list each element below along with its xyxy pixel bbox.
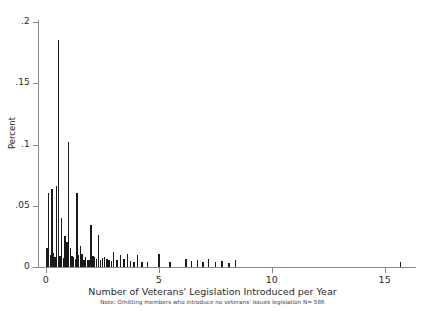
y-tick-label: .2 [8, 16, 30, 26]
histogram-bar [58, 40, 59, 267]
y-axis-line [38, 20, 39, 268]
histogram-bar [208, 259, 209, 267]
plot-area [38, 22, 414, 267]
x-tick-mark [385, 268, 386, 273]
histogram-bar [123, 259, 124, 267]
y-tick-mark [33, 83, 38, 84]
histogram-bar [127, 254, 128, 267]
histogram-bar [94, 257, 95, 267]
x-tick-label: 15 [373, 274, 397, 285]
histogram-bar [113, 252, 114, 267]
histogram-bar [158, 254, 159, 267]
y-tick-label: .05 [8, 200, 30, 210]
y-axis-title: Percent [7, 103, 17, 163]
x-tick-mark [272, 268, 273, 273]
x-axis-line [38, 267, 416, 268]
x-tick-label: 5 [147, 274, 171, 285]
histogram-bar [102, 258, 103, 267]
histogram-bar [120, 255, 121, 267]
y-tick-label: 0 [8, 261, 30, 271]
x-tick-label: 10 [260, 274, 284, 285]
histogram-bar [137, 255, 138, 267]
histogram-bar [116, 260, 117, 267]
histogram-bar [185, 259, 186, 267]
bars-layer [38, 22, 414, 267]
y-tick-label: .15 [8, 77, 30, 87]
x-tick-label: 0 [34, 274, 58, 285]
histogram-figure: 0.05.1.15.2 051015 Percent Number of Vet… [0, 0, 425, 314]
histogram-bar [88, 260, 89, 267]
histogram-bar [106, 259, 107, 267]
x-tick-mark [46, 268, 47, 273]
histogram-bar [235, 260, 236, 267]
histogram-bar [104, 257, 105, 267]
y-tick-mark [33, 145, 38, 146]
histogram-bar [108, 260, 109, 267]
x-tick-mark [159, 268, 160, 273]
y-tick-mark [33, 206, 38, 207]
figure-note: Note: Omitting members who introduce no … [0, 299, 425, 305]
x-axis-title: Number of Veterans' Legislation Introduc… [0, 286, 425, 297]
histogram-bar [197, 260, 198, 267]
y-tick-mark [33, 267, 38, 268]
y-tick-mark [33, 22, 38, 23]
